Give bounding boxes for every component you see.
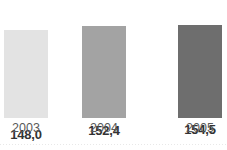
bar-chart-figure: 148,0 152,4 154,5 2003 2004 2005 — [0, 0, 227, 150]
bottom-divider — [0, 144, 227, 145]
bar-2005 — [178, 25, 222, 118]
bar-2003 — [4, 30, 48, 118]
category-label-2005: 2005 — [178, 122, 222, 135]
plot-area: 148,0 152,4 154,5 — [0, 0, 227, 118]
bar-2004 — [82, 26, 126, 118]
category-axis: 2003 2004 2005 — [0, 118, 227, 142]
category-label-2003: 2003 — [4, 122, 48, 135]
category-label-2004: 2004 — [82, 122, 126, 135]
